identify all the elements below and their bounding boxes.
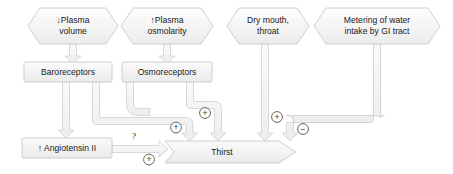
node-gi-metering-label-line2: intake by GI tract: [345, 26, 411, 36]
sign-dry-mouth-to-thirst-label: +: [275, 112, 280, 122]
node-osmoreceptors[interactable]: Osmoreceptors: [122, 62, 212, 82]
node-plasma-osmolarity-label-line2: osmolarity: [147, 26, 187, 36]
connector-baroreceptors-to-angiotensin: [58, 82, 74, 138]
sign-baroreceptors-to-thirst-label: +: [174, 122, 179, 132]
connector-dry-mouth-to-thirst: [257, 44, 273, 141]
sign-angiotensin-to-thirst-label: +: [147, 154, 152, 164]
sign-osmoreceptors-to-thirst-label: +: [203, 108, 208, 118]
sign-osmoreceptors-to-thirst: +: [200, 108, 211, 119]
node-dry-mouth[interactable]: Dry mouth, throat: [227, 8, 309, 44]
annotation-unknown-link-label: ?: [132, 131, 136, 141]
thirst-regulation-diagram: ↓Plasma volume ↑Plasma osmolarity Dry mo…: [0, 0, 453, 174]
diagram-canvas: ↓Plasma volume ↑Plasma osmolarity Dry mo…: [0, 0, 453, 174]
node-gi-metering-label-line1: Metering of water: [344, 15, 411, 25]
node-baroreceptors-label: Baroreceptors: [41, 67, 95, 77]
node-osmoreceptors-label: Osmoreceptors: [138, 67, 197, 77]
node-thirst-label: Thirst: [211, 147, 233, 157]
sign-gi-metering-to-thirst: −: [298, 124, 309, 135]
connector-plasma-osmolarity-to-osmoreceptors: [159, 44, 175, 64]
node-angiotensin-label: ↑ Angiotensin II: [38, 143, 96, 153]
connector-osmoreceptors-left-branch: [127, 82, 151, 116]
annotation-unknown-link: ?: [132, 131, 136, 141]
node-plasma-volume-label-line2: volume: [59, 26, 87, 36]
node-dry-mouth-label-line2: throat: [257, 26, 280, 36]
node-dry-mouth-label-line1: Dry mouth,: [247, 15, 289, 25]
node-plasma-volume[interactable]: ↓Plasma volume: [28, 8, 118, 44]
sign-dry-mouth-to-thirst: +: [272, 112, 283, 123]
sign-baroreceptors-to-thirst: +: [171, 122, 182, 133]
node-plasma-osmolarity[interactable]: ↑Plasma osmolarity: [121, 8, 213, 44]
node-angiotensin[interactable]: ↑ Angiotensin II: [22, 138, 112, 158]
connector-angiotensin-to-thirst: [112, 141, 168, 157]
sign-angiotensin-to-thirst: +: [144, 154, 155, 165]
node-plasma-volume-label-line1: ↓Plasma: [57, 15, 90, 25]
node-thirst[interactable]: Thirst: [165, 141, 296, 163]
node-baroreceptors[interactable]: Baroreceptors: [24, 62, 112, 82]
node-gi-metering[interactable]: Metering of water intake by GI tract: [314, 8, 440, 44]
connector-gi-metering-to-thirst: [282, 44, 385, 141]
node-plasma-osmolarity-label-line1: ↑Plasma: [151, 15, 184, 25]
sign-gi-metering-to-thirst-label: −: [301, 124, 306, 134]
connector-plasma-volume-to-baroreceptors: [65, 44, 81, 64]
